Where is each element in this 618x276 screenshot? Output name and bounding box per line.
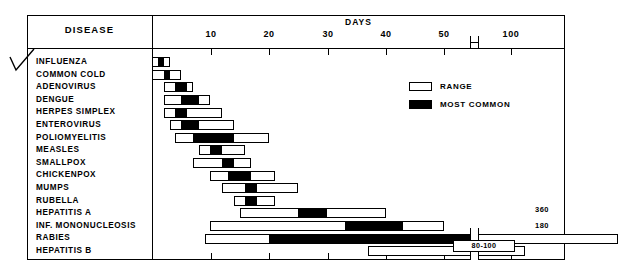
bar-most-common <box>158 57 164 67</box>
tick-label-50: 50 <box>438 29 449 39</box>
tick-label-10: 10 <box>205 29 216 39</box>
tick-mark-20 <box>269 48 270 55</box>
days-axis-title: DAYS <box>152 17 565 27</box>
bar-most-common <box>164 70 170 80</box>
tick-label-100: 100 <box>503 29 520 39</box>
disease-label: RABIES <box>36 232 152 245</box>
tick-mark-10 <box>211 48 212 55</box>
axis-break-connector <box>470 42 478 43</box>
bar-row <box>152 182 565 195</box>
bar-most-common <box>269 234 478 244</box>
header-divider <box>27 48 565 49</box>
disease-label: MUMPS <box>36 182 152 195</box>
disease-label: POLIOMYELITIS <box>36 132 152 145</box>
disease-label: ENTEROVIRUS <box>36 119 152 132</box>
bar-most-common <box>222 158 234 168</box>
bar-row <box>152 69 565 82</box>
bar-most-common <box>181 95 199 105</box>
tick-mark-40 <box>386 48 387 55</box>
bar-row <box>152 119 565 132</box>
tick-label-20: 20 <box>263 29 274 39</box>
bar-row <box>152 56 565 69</box>
disease-label-list: INFLUENZA COMMON COLD ADENOVIRUS DENGUE … <box>36 56 152 258</box>
bars-plot-area <box>152 56 565 236</box>
annotation-hepatitis-b-max: 180 <box>535 221 549 230</box>
bar-most-common <box>228 171 251 181</box>
tick-label-30: 30 <box>322 29 333 39</box>
tick-mark-30 <box>328 48 329 55</box>
disease-column-header: DISEASE <box>27 24 152 35</box>
bar-row <box>152 132 565 145</box>
bar-row <box>152 207 565 220</box>
disease-label: SMALLPOX <box>36 157 152 170</box>
bar-row <box>152 106 565 119</box>
disease-label: DENGUE <box>36 94 152 107</box>
bar-row <box>152 94 565 107</box>
bar-range <box>170 120 234 130</box>
disease-label: RUBELLA <box>36 195 152 208</box>
annotation-rabies-max: 360 <box>535 205 549 214</box>
bar-range <box>222 183 298 193</box>
tick-label-40: 40 <box>380 29 391 39</box>
bar-range <box>164 108 222 118</box>
axis-break-right-icon <box>478 36 479 49</box>
disease-label: HERPES SIMPLEX <box>36 106 152 119</box>
bar-range <box>199 145 246 155</box>
annotation-hepatitis-b-common: 80-100 <box>453 240 515 252</box>
disease-label: CHICKENPOX <box>36 169 152 182</box>
bar-row <box>152 169 565 182</box>
disease-label: HEPATITIS B <box>36 245 152 258</box>
disease-label: ADENOVIRUS <box>36 81 152 94</box>
disease-label: COMMON COLD <box>36 69 152 82</box>
disease-label: INF. MONONUCLEOSIS <box>36 220 152 233</box>
bar-most-common <box>193 133 234 143</box>
bar-most-common <box>245 183 257 193</box>
bar-most-common <box>245 196 257 206</box>
bar-most-common <box>181 120 199 130</box>
disease-label: INFLUENZA <box>36 56 152 69</box>
disease-label: MEASLES <box>36 144 152 157</box>
bar-row <box>152 157 565 170</box>
bar-most-common <box>345 221 403 231</box>
bar-range <box>210 221 444 231</box>
tick-mark-100 <box>511 48 512 55</box>
bar-most-common <box>210 145 222 155</box>
tick-mark-50 <box>444 48 445 55</box>
bar-row <box>152 220 565 233</box>
bar-row <box>152 81 565 94</box>
bar-most-common <box>175 82 187 92</box>
bar-row <box>152 195 565 208</box>
bar-row <box>152 144 565 157</box>
bar-most-common <box>298 208 327 218</box>
bar-most-common <box>175 108 187 118</box>
disease-label: HEPATITIS A <box>36 207 152 220</box>
